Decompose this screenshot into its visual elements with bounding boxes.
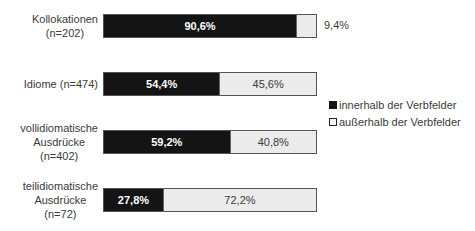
value-label-inner: 90,6%: [184, 20, 215, 32]
legend-label: innerhalb der Verbfelder: [339, 99, 456, 111]
bar-segment-outer: [296, 15, 316, 37]
value-label-outer: 9,4%: [324, 19, 349, 31]
bar-idiome: 54,4% 45,6%: [103, 72, 317, 96]
bar-segment-outer: 40,8%: [230, 131, 316, 153]
category-label-kollokationen: Kollokationen (n=202): [32, 12, 98, 40]
legend-item-innerhalb: innerhalb der Verbfelder: [329, 96, 461, 113]
category-label-line: (n=202): [32, 26, 98, 40]
bar-segment-inner: 27,8%: [104, 189, 163, 211]
category-label-teilidiomatische: teilidiomatische Ausdrücke (n=72): [23, 179, 98, 221]
bar-segment-outer: 72,2%: [163, 189, 316, 211]
stacked-bar-chart: Kollokationen (n=202) 90,6% 9,4% Idiome …: [0, 0, 475, 231]
value-label-outer: 45,6%: [253, 78, 284, 90]
value-label-inner: 59,2%: [151, 136, 182, 148]
value-label-inner: 27,8%: [118, 194, 149, 206]
bar-segment-inner: 54,4%: [104, 73, 219, 95]
category-label-line: Ausdrücke: [23, 193, 98, 207]
bar-kollokationen: 90,6%: [103, 14, 317, 38]
legend-label: außerhalb der Verbfelder: [339, 116, 461, 128]
bar-segment-inner: 59,2%: [104, 131, 230, 153]
value-label-outer: 72,2%: [224, 194, 255, 206]
category-label-line: Ausdrücke: [20, 135, 98, 149]
bar-vollidiomatische: 59,2% 40,8%: [103, 130, 317, 154]
bar-segment-outer: 45,6%: [219, 73, 316, 95]
category-label-line: teilidiomatische: [23, 179, 98, 193]
legend-swatch-dark-icon: [329, 101, 337, 109]
category-label-line: (n=402): [20, 149, 98, 163]
category-label-line: vollidiomatische: [20, 121, 98, 135]
category-label-line: (n=72): [23, 207, 98, 221]
category-label-line: Idiome (n=474): [24, 77, 98, 91]
legend-item-ausserhalb: außerhalb der Verbfelder: [329, 113, 461, 130]
legend: innerhalb der Verbfelder außerhalb der V…: [329, 96, 461, 130]
legend-swatch-light-icon: [329, 118, 337, 126]
category-label-line: Kollokationen: [32, 12, 98, 26]
value-label-outer: 40,8%: [258, 136, 289, 148]
bar-teilidiomatische: 27,8% 72,2%: [103, 188, 317, 212]
bar-segment-inner: 90,6%: [104, 15, 296, 37]
category-label-vollidiomatische: vollidiomatische Ausdrücke (n=402): [20, 121, 98, 163]
value-label-inner: 54,4%: [146, 78, 177, 90]
category-label-idiome: Idiome (n=474): [24, 77, 98, 91]
